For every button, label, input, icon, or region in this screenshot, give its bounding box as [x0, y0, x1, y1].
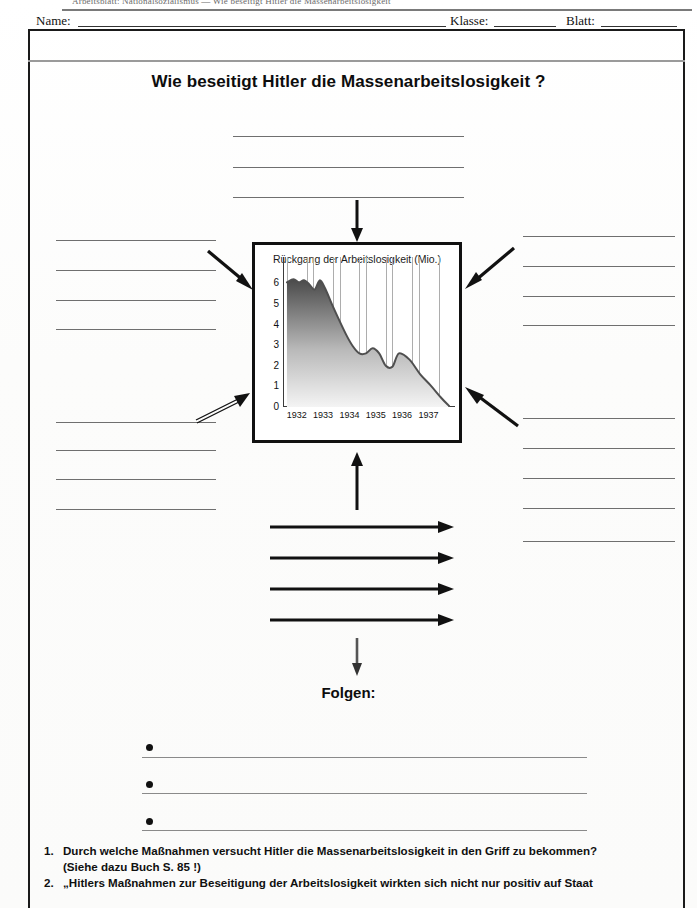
folgen-heading: Folgen:	[0, 684, 697, 701]
arrow-horizontal-3	[270, 583, 454, 595]
bullet-marker-3	[146, 818, 153, 825]
folgen-line-2[interactable]	[142, 793, 587, 794]
chart-y-tick-4: 4	[273, 320, 279, 330]
answer-line-right-6[interactable]	[523, 448, 675, 449]
bullet-marker-2	[146, 781, 153, 788]
answer-line-right-7[interactable]	[523, 478, 675, 479]
question-2-number: 2.	[44, 875, 63, 891]
arrow-up-to-chart	[350, 452, 364, 512]
answer-line-right-1[interactable]	[523, 236, 675, 237]
chart-plot-area: 0123456 193219331934193519361937	[283, 271, 453, 407]
chart-x-tick-1935: 1935	[366, 411, 386, 420]
folgen-line-1[interactable]	[142, 757, 587, 758]
answer-line-left-2[interactable]	[56, 270, 216, 271]
arrow-down-to-chart	[350, 200, 364, 242]
arrow-horizontal-4	[270, 614, 454, 626]
page-title: Wie beseitigt Hitler die Massenarbeitslo…	[0, 72, 697, 92]
folgen-line-3[interactable]	[142, 830, 587, 831]
answer-line-top-3[interactable]	[233, 197, 464, 198]
chart-x-tick-1933: 1933	[313, 411, 333, 420]
chart-y-tick-0: 0	[273, 402, 279, 412]
klasse-label: Klasse:	[450, 13, 488, 29]
arrow-horizontal-2	[270, 552, 454, 564]
chart-x-tick-1934: 1934	[339, 411, 359, 420]
arrow-left-lower-to-chart	[194, 390, 252, 424]
blatt-input-rule[interactable]	[601, 26, 677, 27]
answer-line-right-2[interactable]	[523, 266, 675, 267]
arrow-right-lower-to-chart	[464, 386, 520, 428]
answer-line-top-2[interactable]	[233, 167, 464, 168]
unemployment-chart: Rückgang der Arbeitslosigkeit (Mio.) 012…	[252, 242, 462, 443]
arrow-down-to-folgen	[351, 638, 363, 676]
page-running-header: Arbeitsblatt: Nationalsozialismus — Wie …	[72, 0, 402, 6]
answer-line-left-3[interactable]	[56, 300, 216, 301]
answer-line-left-8[interactable]	[56, 509, 216, 510]
worksheet-page: Arbeitsblatt: Nationalsozialismus — Wie …	[0, 0, 697, 908]
chart-title: Rückgang der Arbeitslosigkeit (Mio.)	[255, 253, 459, 265]
answer-line-right-8[interactable]	[523, 508, 675, 509]
question-1-number: 1.	[44, 843, 63, 859]
arrow-horizontal-1	[270, 521, 454, 533]
chart-y-tick-1: 1	[273, 381, 279, 391]
name-label: Name:	[36, 13, 71, 29]
answer-line-right-3[interactable]	[523, 296, 675, 297]
arrow-left-upper-to-chart	[206, 249, 254, 291]
bullet-marker-1	[146, 744, 153, 751]
questions-block: 1. Durch welche Maßnahmen versucht Hitle…	[44, 843, 676, 891]
answer-line-left-6[interactable]	[56, 450, 216, 451]
chart-series-area	[283, 271, 453, 407]
klasse-input-rule[interactable]	[494, 26, 556, 27]
answer-line-left-5[interactable]	[56, 422, 216, 423]
chart-y-tick-3: 3	[273, 340, 279, 350]
answer-line-left-4[interactable]	[56, 329, 216, 330]
chart-y-tick-2: 2	[273, 361, 279, 371]
question-2: 2. „Hitlers Maßnahmen zur Beseitigung de…	[44, 875, 676, 891]
chart-y-tick-5: 5	[273, 299, 279, 309]
chart-x-tick-1936: 1936	[392, 411, 412, 420]
arrow-right-upper-to-chart	[464, 246, 516, 290]
question-1-subtext: (Siehe dazu Buch S. 85 !)	[63, 859, 676, 875]
chart-x-tick-1932: 1932	[287, 411, 307, 420]
answer-line-right-9[interactable]	[523, 541, 675, 542]
name-bar	[28, 29, 685, 62]
answer-line-left-7[interactable]	[56, 479, 216, 480]
question-1: 1. Durch welche Maßnahmen versucht Hitle…	[44, 843, 676, 859]
question-2-text: „Hitlers Maßnahmen zur Beseitigung der A…	[63, 875, 676, 891]
header-divider-rule	[62, 9, 692, 11]
answer-line-left-1[interactable]	[56, 240, 216, 241]
chart-x-tick-1937: 1937	[418, 411, 438, 420]
name-input-rule[interactable]	[78, 26, 446, 27]
question-1-text: Durch welche Maßnahmen versucht Hitler d…	[63, 843, 676, 859]
chart-y-tick-6: 6	[273, 278, 279, 288]
answer-line-right-5[interactable]	[523, 418, 675, 419]
answer-line-right-4[interactable]	[523, 325, 675, 326]
blatt-label: Blatt:	[566, 13, 595, 29]
answer-line-top-1[interactable]	[233, 136, 464, 137]
